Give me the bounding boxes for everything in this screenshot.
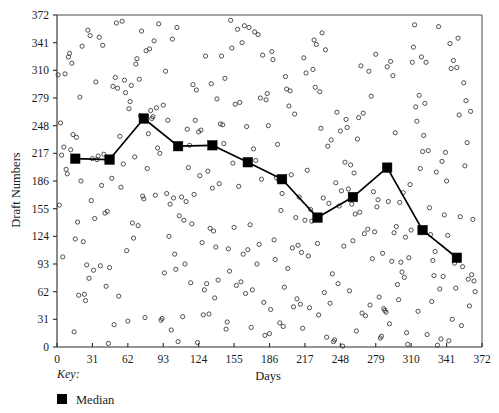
median-marker bbox=[71, 154, 81, 164]
median-marker bbox=[173, 141, 183, 151]
x-tick-label: 93 bbox=[158, 353, 170, 365]
legend-median-swatch bbox=[57, 394, 67, 404]
y-tick-label: 186 bbox=[32, 175, 50, 187]
x-tick-label: 0 bbox=[54, 353, 60, 365]
legend-median-label: Median bbox=[76, 393, 115, 407]
x-tick-label: 310 bbox=[403, 353, 421, 365]
x-tick-label: 248 bbox=[332, 353, 350, 365]
x-tick-label: 186 bbox=[261, 353, 279, 365]
y-tick-label: 310 bbox=[32, 64, 50, 76]
y-axis: 0316293124155186217248279310341372 bbox=[32, 9, 57, 353]
median-marker bbox=[243, 158, 253, 168]
y-tick-label: 31 bbox=[38, 313, 50, 325]
legend-key-label: Key: bbox=[56, 367, 80, 381]
x-tick-label: 279 bbox=[367, 353, 385, 365]
y-tick-label: 217 bbox=[32, 147, 50, 159]
median-marker bbox=[139, 114, 149, 124]
y-axis-title: Draft Numbers bbox=[9, 152, 23, 227]
median-marker bbox=[277, 174, 287, 184]
median-marker bbox=[105, 155, 115, 165]
x-tick-label: 372 bbox=[473, 353, 491, 365]
median-marker bbox=[208, 141, 218, 151]
median-marker bbox=[348, 192, 358, 202]
x-tick-label: 155 bbox=[225, 353, 243, 365]
scatter-chart: 0316293124155186217248279310341372 03162… bbox=[0, 0, 499, 413]
y-tick-label: 372 bbox=[32, 9, 50, 21]
x-tick-label: 217 bbox=[296, 353, 314, 365]
x-axis-title: Days bbox=[255, 369, 281, 383]
y-tick-label: 279 bbox=[32, 92, 50, 104]
y-tick-label: 93 bbox=[38, 258, 50, 270]
median-marker bbox=[313, 213, 323, 223]
median-marker bbox=[382, 163, 392, 173]
x-tick-label: 341 bbox=[438, 353, 456, 365]
x-tick-label: 124 bbox=[190, 353, 208, 365]
y-tick-label: 155 bbox=[32, 203, 50, 215]
y-tick-label: 124 bbox=[32, 230, 50, 242]
x-tick-label: 62 bbox=[122, 353, 134, 365]
y-tick-label: 341 bbox=[32, 37, 50, 49]
y-tick-label: 62 bbox=[38, 286, 50, 298]
y-tick-label: 248 bbox=[32, 120, 50, 132]
x-tick-label: 31 bbox=[87, 353, 99, 365]
median-marker bbox=[418, 225, 428, 235]
y-tick-label: 0 bbox=[43, 341, 49, 353]
median-marker bbox=[452, 253, 462, 263]
draft-lottery-figure: 0316293124155186217248279310341372 03162… bbox=[0, 0, 499, 413]
